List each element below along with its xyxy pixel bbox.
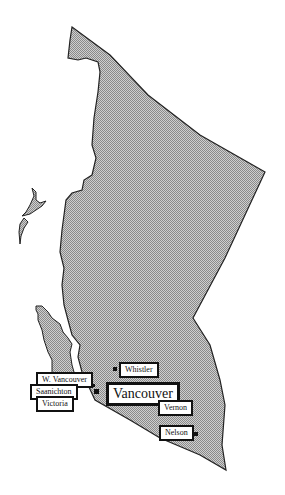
city-label-nelson: Nelson — [159, 425, 194, 441]
city-label-vernon: Vernon — [158, 400, 193, 416]
province-map — [0, 0, 285, 495]
nelson-dot — [194, 432, 198, 436]
city-label-victoria: Victoria — [36, 396, 74, 412]
city-label-whistler: Whistler — [119, 362, 159, 378]
haida-gwaii-shape — [22, 188, 46, 216]
haida-gwaii-south-shape — [19, 218, 28, 244]
vancouver-dot — [94, 389, 99, 394]
whistler-dot — [113, 367, 117, 371]
